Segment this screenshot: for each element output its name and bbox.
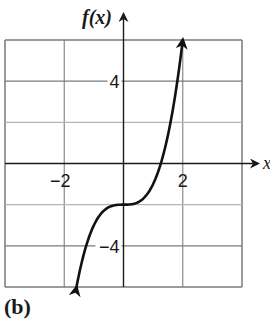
tick-labels: f(x)x−224−4 [50, 6, 270, 257]
y-tick-label: 4 [109, 72, 119, 92]
y-tick-label: −4 [99, 237, 120, 257]
figure-caption: (b) [4, 294, 31, 320]
x-tick-label: −2 [50, 171, 71, 191]
x-tick-label: 2 [178, 171, 188, 191]
x-axis-label: x [262, 153, 270, 173]
y-axis-label: f(x) [82, 6, 112, 29]
function-graph: f(x)x−224−4 [0, 0, 270, 300]
